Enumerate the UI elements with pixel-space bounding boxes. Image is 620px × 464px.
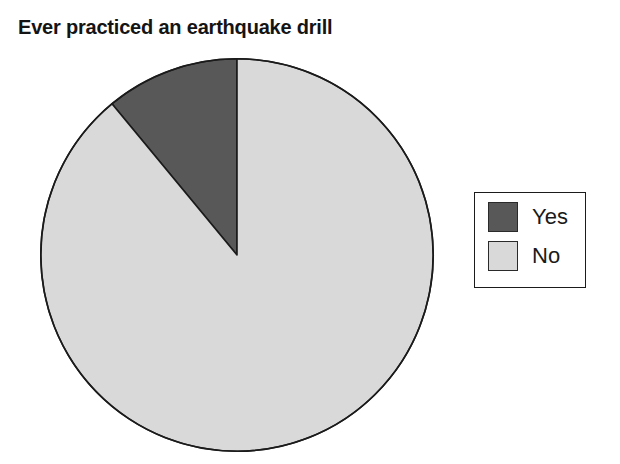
legend: Yes No bbox=[474, 192, 586, 288]
pie-chart-svg bbox=[38, 56, 436, 454]
pie-slices-group bbox=[41, 59, 433, 451]
legend-label-no: No bbox=[532, 245, 560, 267]
pie-chart-plot-area bbox=[38, 56, 436, 454]
legend-label-yes: Yes bbox=[532, 206, 568, 228]
legend-item-yes[interactable]: Yes bbox=[488, 202, 568, 232]
pie-slice-no[interactable] bbox=[41, 59, 433, 451]
chart-title: Ever practiced an earthquake drill bbox=[18, 16, 332, 39]
pie-chart-figure: Ever practiced an earthquake drill Yes N… bbox=[0, 0, 620, 464]
legend-swatch-no bbox=[488, 241, 518, 271]
legend-swatch-yes bbox=[488, 202, 518, 232]
legend-item-no[interactable]: No bbox=[488, 241, 560, 271]
